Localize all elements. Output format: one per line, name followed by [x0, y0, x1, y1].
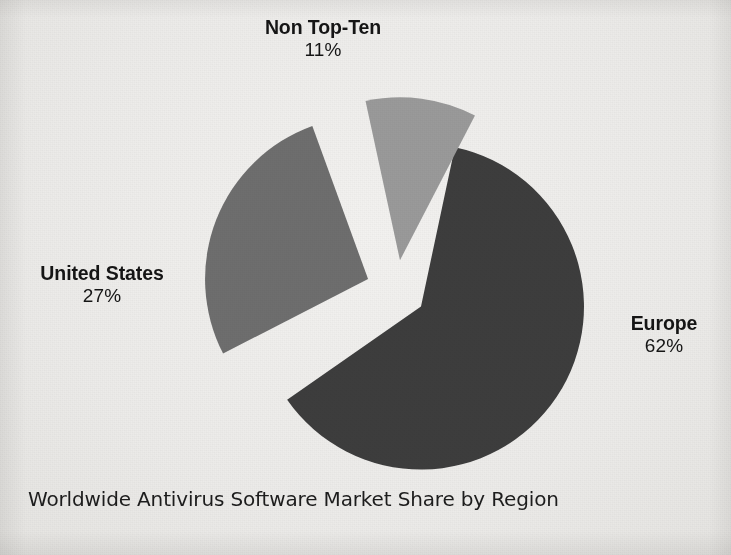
pie-label-united-states: United States 27% — [0, 262, 212, 307]
pie-label-europe: Europe 62% — [598, 312, 730, 357]
pie-label-non-top-ten-percent: 11% — [198, 39, 448, 61]
pie-slice-united-states — [205, 126, 368, 354]
pie-label-united-states-percent: 27% — [0, 285, 212, 307]
pie-label-united-states-name: United States — [0, 262, 212, 285]
pie-label-europe-percent: 62% — [598, 335, 730, 357]
pie-label-europe-name: Europe — [598, 312, 730, 335]
scanned-page-figure: Non Top-Ten 11% United States 27% Europe… — [0, 0, 731, 555]
figure-caption: Worldwide Antivirus Software Market Shar… — [28, 487, 559, 511]
pie-label-non-top-ten: Non Top-Ten 11% — [198, 16, 448, 61]
pie-label-non-top-ten-name: Non Top-Ten — [198, 16, 448, 39]
